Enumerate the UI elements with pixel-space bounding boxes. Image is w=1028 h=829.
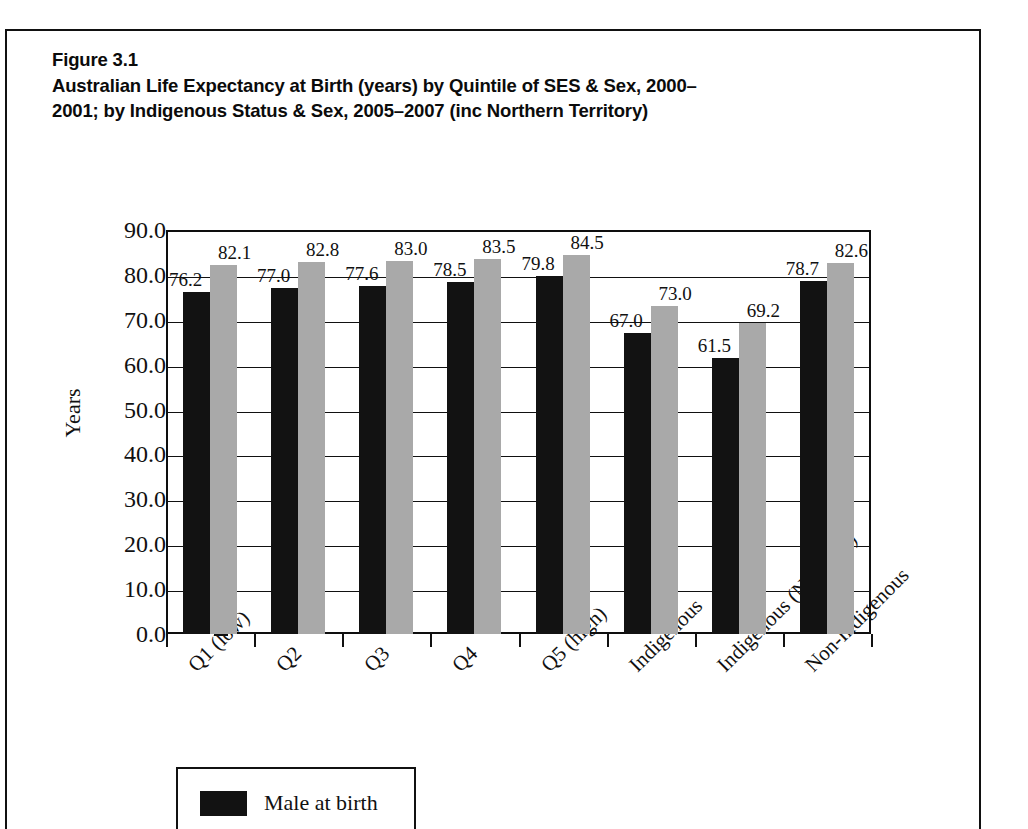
bar-value-label: 67.0: [596, 311, 656, 330]
figure-page: Figure 3.1 Australian Life Expectancy at…: [0, 0, 1028, 829]
bar-value-label: 73.0: [645, 284, 705, 303]
y-tick-label: 60.0: [74, 353, 166, 377]
bar-value-label: 77.0: [244, 266, 304, 285]
y-tick-label: 90.0: [74, 218, 166, 242]
x-tick-mark: [519, 634, 521, 647]
y-tick-label: 70.0: [74, 308, 166, 332]
bar-value-label: 76.2: [156, 270, 216, 289]
y-tick-label: 50.0: [74, 398, 166, 422]
y-tick-label: 40.0: [74, 442, 166, 466]
bar-value-label: 82.6: [821, 241, 881, 260]
bar-value-label: 82.8: [293, 240, 353, 259]
x-tick-mark: [871, 634, 873, 647]
legend-swatch: [200, 791, 247, 816]
x-tick-mark: [166, 634, 168, 647]
bar-male: [800, 281, 827, 634]
x-tick-mark: [254, 634, 256, 647]
y-tick-label: 80.0: [74, 263, 166, 287]
x-category-label: Q4: [449, 643, 482, 676]
bar-value-label: 78.7: [772, 259, 832, 278]
legend-item: Female at birth: [200, 823, 414, 829]
y-tick-label: 30.0: [74, 487, 166, 511]
bar-value-label: 69.2: [733, 301, 793, 320]
chart-legend: Male at birthFemale at birth: [176, 767, 416, 829]
y-axis: 0.010.020.030.040.050.060.070.080.090.0: [62, 0, 166, 829]
x-tick-mark: [430, 634, 432, 647]
bar-male: [536, 276, 563, 634]
bar-value-label: 61.5: [684, 336, 744, 355]
bar-male: [624, 333, 651, 634]
bar-value-label: 79.8: [508, 254, 568, 273]
bar-chart: Years 0.010.020.030.040.050.060.070.080.…: [0, 0, 1028, 829]
bar-female: [827, 263, 854, 634]
bar-female: [298, 262, 325, 634]
x-category-label: Q2: [273, 643, 306, 676]
bar-male: [183, 292, 210, 634]
y-tick-label: 10.0: [74, 577, 166, 601]
legend-label: Male at birth: [264, 790, 378, 816]
bar-value-label: 84.5: [557, 233, 617, 252]
bar-male: [359, 286, 386, 634]
y-tick-label: 0.0: [74, 622, 166, 646]
bar-female: [563, 255, 590, 634]
x-tick-mark: [783, 634, 785, 647]
bar-female: [386, 261, 413, 634]
legend-item: Male at birth: [200, 783, 414, 823]
x-tick-mark: [695, 634, 697, 647]
x-tick-mark: [607, 634, 609, 647]
bar-female: [651, 306, 678, 634]
bar-female: [474, 259, 501, 634]
bar-male: [447, 282, 474, 634]
x-category-label: Q3: [361, 643, 394, 676]
bar-male: [271, 288, 298, 634]
bar-female: [210, 265, 237, 634]
bar-value-label: 83.0: [381, 239, 441, 258]
bar-value-label: 78.5: [420, 260, 480, 279]
bar-female: [739, 323, 766, 634]
bar-value-label: 82.1: [205, 243, 265, 262]
y-tick-label: 20.0: [74, 532, 166, 556]
bar-value-label: 77.6: [332, 264, 392, 283]
x-tick-mark: [342, 634, 344, 647]
bar-male: [712, 358, 739, 634]
